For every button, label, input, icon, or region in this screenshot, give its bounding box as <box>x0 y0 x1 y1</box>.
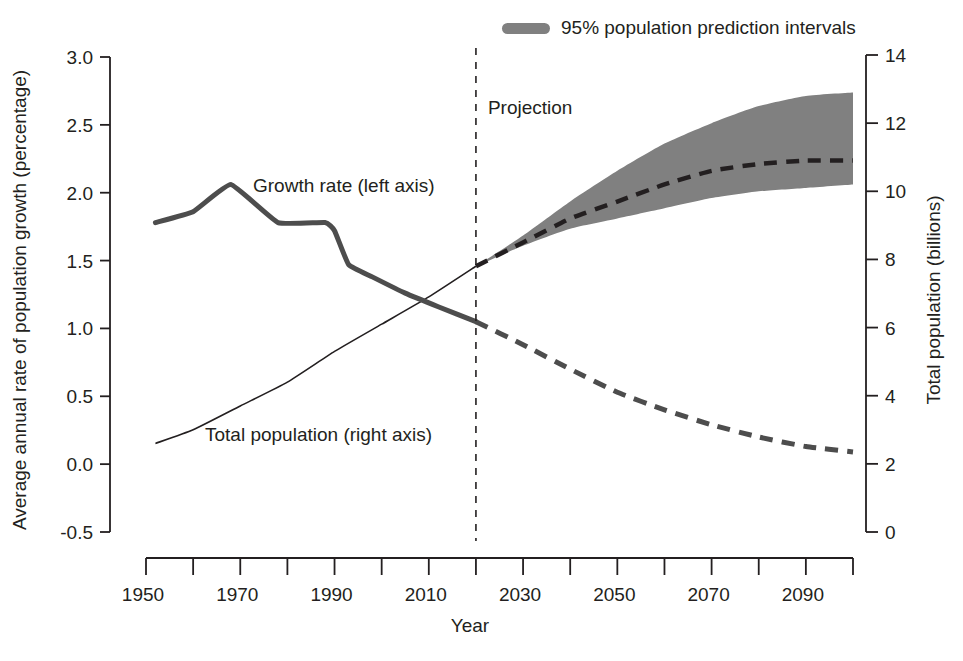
left-axis-tick-label: 2.5 <box>67 115 93 136</box>
left-axis-tick-label: 2.0 <box>67 183 93 204</box>
left-axis-tick-label: 0.5 <box>67 386 93 407</box>
growth-rate-projection-line <box>476 322 853 452</box>
chart-canvas: 95% population prediction intervals Proj… <box>0 0 963 661</box>
x-axis-tick-label: 1970 <box>216 584 258 605</box>
left-axis-tick-label: 1.0 <box>67 318 93 339</box>
x-axis-tick-label: 2070 <box>687 584 729 605</box>
growth-rate-series-label: Growth rate (left axis) <box>253 175 435 196</box>
x-axis-tick-label: 2030 <box>499 584 541 605</box>
x-axis-tick-label: 1950 <box>122 584 164 605</box>
legend-label-prediction-interval: 95% population prediction intervals <box>561 17 856 38</box>
left-axis-tick-label: 3.0 <box>67 47 93 68</box>
legend: 95% population prediction intervals <box>502 17 856 38</box>
left-axis-title: Average annual rate of population growth… <box>9 70 30 530</box>
projection-annotation-label: Projection <box>488 97 573 118</box>
right-axis-title: Total population (billions) <box>923 195 944 404</box>
x-axis-tick-label: 2050 <box>593 584 635 605</box>
right-axis-tick-label: 14 <box>885 45 907 66</box>
left-axis-tick-label: 0.0 <box>67 454 93 475</box>
total-population-series-label: Total population (right axis) <box>205 424 432 445</box>
right-axis-tick-label: 8 <box>885 249 896 270</box>
left-axis-tick-label: 1.5 <box>67 251 93 272</box>
right-axis-tick-label: 0 <box>885 522 896 543</box>
right-axis-ticks: 02468101214 <box>866 45 907 543</box>
population-growth-chart: 95% population prediction intervals Proj… <box>0 0 963 661</box>
total-population-line <box>155 266 476 443</box>
x-axis-tick-label: 2010 <box>405 584 447 605</box>
left-axis-tick-label: -0.5 <box>60 522 93 543</box>
right-axis-tick-label: 2 <box>885 454 896 475</box>
x-axis-tick-label: 1990 <box>310 584 352 605</box>
right-axis-tick-label: 12 <box>885 113 906 134</box>
right-axis-tick-label: 4 <box>885 386 896 407</box>
x-axis-title: Year <box>451 615 490 636</box>
prediction-interval-band <box>476 92 853 266</box>
legend-swatch-prediction-interval <box>502 23 550 34</box>
right-axis-tick-label: 10 <box>885 181 906 202</box>
x-axis-tick-label: 2090 <box>782 584 824 605</box>
left-axis-ticks: -0.50.00.51.01.52.02.53.0 <box>60 47 110 543</box>
right-axis-tick-label: 6 <box>885 318 896 339</box>
x-axis-ticks: 19501970199020102030205020702090 <box>122 558 853 605</box>
growth-rate-line <box>155 185 476 322</box>
